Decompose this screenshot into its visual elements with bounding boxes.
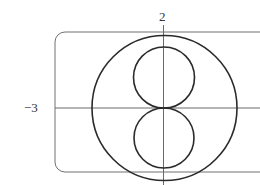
- plot-frame: [55, 32, 260, 172]
- y-axis-tick-label: 2: [159, 10, 166, 23]
- figure-container: 2 −3: [0, 0, 260, 185]
- plot-canvas: [0, 0, 260, 185]
- x-axis-tick-label: −3: [24, 101, 38, 114]
